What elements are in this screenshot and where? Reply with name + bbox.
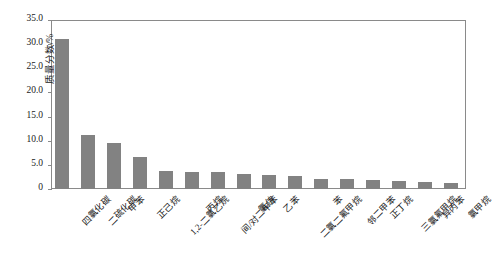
y-axis-tick-mark [48,92,52,93]
y-axis-tick-mark [48,68,52,69]
y-axis-tick-label: 15.0 [26,110,43,120]
bar [418,182,432,189]
y-axis-tick-label: 30.0 [26,37,43,47]
bar [392,181,406,189]
y-axis-tick-label: 10.0 [26,134,43,144]
bar [107,143,121,189]
x-axis-tick-label: 正己烷 [154,193,182,221]
y-axis-tick-label: 25.0 [26,61,43,71]
x-axis-tick-label: 氯甲烷 [465,193,493,221]
bar [159,171,173,189]
bar [55,39,69,189]
y-axis-tick-label: 20.0 [26,85,43,95]
y-axis-tick-mark [48,141,52,142]
bar [288,176,302,189]
y-axis-tick-mark [48,20,52,21]
bar [211,172,225,189]
y-axis-tick-label: 0 [38,182,43,192]
y-axis-tick-label: 5.0 [31,158,43,168]
y-axis-tick-mark [48,189,52,190]
x-axis-tick-label: 异丙苯 [439,193,467,221]
bar [81,135,95,189]
bar [340,179,354,189]
bar [133,157,147,189]
y-axis-tick-mark [48,165,52,166]
y-axis-tick-label: 35.0 [26,13,43,23]
bar [262,175,276,189]
bar [185,172,199,189]
bar [237,174,251,189]
bar [314,179,328,189]
x-axis-tick-label: 乙苯 [281,193,303,215]
y-axis-tick-mark [48,117,52,118]
bar [444,183,458,189]
y-axis-tick-mark [48,44,52,45]
bar [366,180,380,189]
